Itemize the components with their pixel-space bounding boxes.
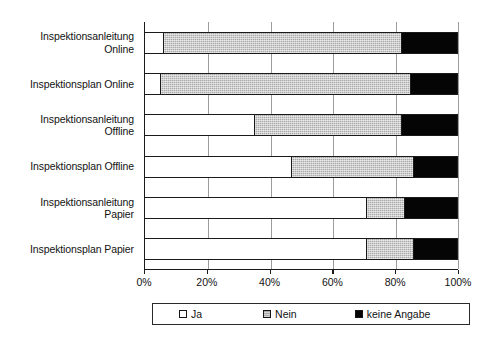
legend-swatch-nein-icon: [263, 310, 271, 318]
bar-segment-keine: [405, 197, 458, 219]
category-label: InspektionsanleitungPapier: [6, 196, 134, 221]
x-tick-label: 40%: [259, 276, 280, 288]
legend-item-keine: keine Angabe: [355, 308, 431, 320]
category-label-line: Online: [6, 43, 134, 56]
category-label: InspektionsanleitungOnline: [6, 30, 134, 55]
category-axis-labels: InspektionsanleitungOnlineInspektionspla…: [6, 22, 140, 270]
x-tick-label: 100%: [445, 276, 472, 288]
x-tick-mark: [395, 270, 396, 274]
bar-segment-keine: [411, 73, 458, 95]
bar-segment-nein: [161, 73, 411, 95]
bar-segment-nein: [164, 32, 402, 54]
x-tick-mark: [332, 270, 333, 274]
category-label: Inspektionsplan Offline: [6, 160, 134, 173]
legend-swatch-keine-icon: [355, 310, 363, 318]
x-tick-label: 80%: [385, 276, 406, 288]
bar-segment-ja: [145, 238, 367, 260]
x-tick-mark: [207, 270, 208, 274]
bar-segment-ja: [145, 197, 367, 219]
category-label-line: Inspektionsplan Papier: [6, 243, 134, 256]
legend-label: keine Angabe: [367, 308, 431, 320]
x-tick-label: 20%: [196, 276, 217, 288]
category-label: Inspektionsplan Papier: [6, 243, 134, 256]
x-tick-label: 60%: [322, 276, 343, 288]
legend-swatch-ja-icon: [179, 310, 187, 318]
category-label-line: Inspektionsanleitung: [6, 113, 134, 126]
bar-row: [145, 156, 458, 178]
legend-label: Nein: [275, 308, 297, 320]
stacked-bar-chart: InspektionsanleitungOnlineInspektionspla…: [0, 0, 491, 341]
category-label-line: Inspektionsplan Offline: [6, 160, 134, 173]
category-label: InspektionsanleitungOffline: [6, 113, 134, 138]
bar-row: [145, 114, 458, 136]
bar-row: [145, 238, 458, 260]
category-label-line: Inspektionsanleitung: [6, 30, 134, 43]
bar-segment-ja: [145, 32, 164, 54]
bar-row: [145, 73, 458, 95]
gridline-100: [458, 22, 459, 269]
legend-item-nein: Nein: [263, 308, 297, 320]
bar-row: [145, 32, 458, 54]
bar-segment-nein: [367, 238, 414, 260]
bar-segment-nein: [367, 197, 405, 219]
bar-segment-ja: [145, 114, 255, 136]
category-label-line: Papier: [6, 208, 134, 221]
plot-area: [144, 22, 458, 270]
bar-segment-keine: [414, 238, 458, 260]
bar-segment-keine: [402, 32, 458, 54]
chart-legend: JaNeinkeine Angabe: [152, 303, 470, 325]
category-label-line: Inspektionsplan Online: [6, 78, 134, 91]
x-tick-label: 0%: [136, 276, 151, 288]
bar-segment-keine: [402, 114, 458, 136]
x-tick-mark: [458, 270, 459, 274]
category-label-line: Offline: [6, 125, 134, 138]
bar-segment-ja: [145, 156, 292, 178]
x-tick-mark: [270, 270, 271, 274]
category-label-line: Inspektionsanleitung: [6, 196, 134, 209]
legend-item-ja: Ja: [179, 308, 202, 320]
bar-segment-nein: [292, 156, 414, 178]
category-label: Inspektionsplan Online: [6, 78, 134, 91]
bar-segment-nein: [255, 114, 402, 136]
bar-segment-keine: [414, 156, 458, 178]
bar-row: [145, 197, 458, 219]
bar-segment-ja: [145, 73, 161, 95]
x-tick-mark: [144, 270, 145, 274]
bar-series-group: [145, 22, 458, 269]
legend-label: Ja: [191, 308, 202, 320]
x-axis: 0%20%40%60%80%100%: [144, 270, 458, 296]
